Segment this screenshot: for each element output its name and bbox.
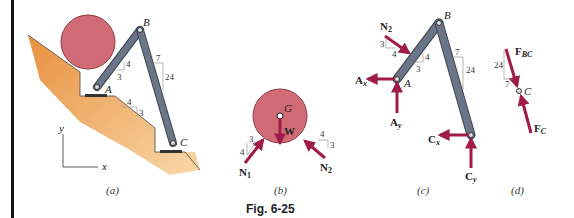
slope-n2-a: 4 [320,129,325,139]
label-a: A [104,83,112,95]
label-ax: Ax [355,74,367,88]
caption-c: (c) [417,184,430,197]
page-border-line [11,0,14,218]
axes-xy [63,134,98,167]
slope-bc-rise: 24 [165,72,175,82]
pin-b-fbd [437,21,442,26]
force-n2-arrow [305,141,325,158]
figure-6-25: B A C 4 3 4 3 7 24 y x (a) G W N1 4 3 N2… [0,0,574,218]
panel-d: FBC 24 7 C FC (d) [494,45,547,197]
disk [61,15,115,69]
support-a [85,94,107,97]
member-bc-fbd-fill [439,23,471,135]
caption-a: (a) [106,184,119,197]
label-c-d: C [524,85,532,97]
label-a-fbd: A [403,77,411,89]
slope-ground-rise: 3 [139,108,144,118]
label-n2: N2 [320,161,332,175]
slope-ab-fbd-b: 3 [416,64,421,74]
label-cy: Cy [465,170,477,184]
caption-d: (d) [511,184,524,197]
slope-fbc-a: 24 [494,60,504,70]
slope-n2-b: 3 [330,140,335,150]
slope-n2-fbd-b: 4 [392,49,397,59]
label-fc: FC [534,122,547,136]
axis-x-label: x [101,160,107,172]
pin-a-fbd [395,77,400,82]
slope-bc-run: 7 [156,53,161,63]
caption-b: (b) [274,184,287,197]
figure-caption: Fig. 6-25 [246,202,295,216]
pin-a [95,85,100,90]
label-b: B [143,16,150,28]
pin-c-d [517,89,522,94]
label-c: C [180,136,188,148]
panel-c: B A N2 3 4 4 3 7 24 Ax Ay Cx Cy (c) [355,9,477,197]
slope-triangle-n2 [318,140,328,148]
axis-y-label: y [58,122,64,134]
label-fbc: FBC [515,45,533,59]
slope-fbc-b: 7 [505,79,510,89]
force-n2-fbd-arrow [385,36,409,53]
panel-a: B A C 4 3 4 3 7 24 y x (a) [28,15,200,197]
slope-n1-a: 4 [240,147,245,157]
ground-slope [28,35,200,175]
slope-ab-fbd-a: 4 [425,52,430,62]
slope-ground-run: 4 [127,97,132,107]
panel-b: G W N1 4 3 N2 4 3 (b) [239,89,335,197]
label-g: G [284,102,292,114]
label-n1: N1 [239,166,251,180]
label-w: W [284,125,295,137]
pin-c-fbd [469,133,474,138]
force-n1-arrow [245,140,263,163]
slope-ab-run: 3 [117,72,122,82]
slope-ab-rise: 4 [126,59,131,69]
label-cx: Cx [428,133,440,147]
slope-bc-fbd-a: 7 [455,47,460,57]
support-c [160,150,182,153]
label-n2-fbd: N2 [380,20,392,34]
slope-n2-fbd-a: 3 [380,39,385,49]
slope-bc-fbd-b: 24 [466,65,476,75]
pin-c [171,141,176,146]
force-fc-arrow [521,96,531,133]
pin-b [138,28,143,33]
label-b-fbd: B [444,9,451,21]
label-ay: Ay [390,116,402,130]
slope-n1-b: 3 [249,134,254,144]
